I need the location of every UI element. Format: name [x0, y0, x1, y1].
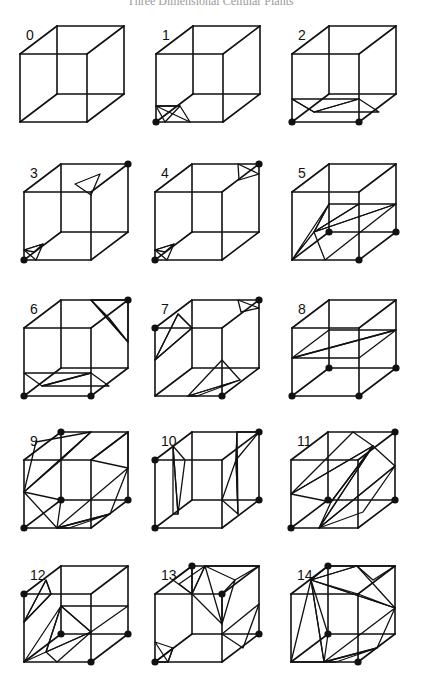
cube-edge	[359, 94, 396, 122]
cube-case-10: 10	[151, 428, 262, 531]
marked-vertex-dot	[188, 562, 195, 569]
isosurface-triangle	[292, 204, 329, 260]
cube-edge	[91, 634, 128, 662]
marked-vertex-dot	[20, 524, 27, 531]
marked-vertex-dot	[218, 590, 225, 597]
cube-case-2: 2	[288, 26, 396, 126]
isosurface-triangle	[222, 460, 238, 514]
isosurface-triangle	[46, 632, 91, 662]
cube-edge	[359, 164, 396, 192]
marked-vertex-dot	[354, 658, 361, 665]
cube-edge	[223, 26, 260, 54]
case-number-label: 7	[161, 301, 169, 317]
cube-edge	[222, 232, 259, 260]
cube-case-6: 6	[20, 296, 131, 399]
isosurface-triangle	[155, 314, 192, 360]
marked-vertex-dot	[355, 256, 362, 263]
cube-edge	[358, 432, 395, 460]
isosurface-triangle	[292, 330, 396, 358]
marked-vertex-dot	[255, 630, 262, 637]
cube-edge	[359, 300, 396, 328]
marked-vertex-dot	[124, 630, 131, 637]
cube-case-4: 4	[151, 160, 262, 263]
marked-vertex-dot	[355, 392, 362, 399]
cube-edge	[91, 300, 128, 328]
marked-vertex-dot	[124, 160, 131, 167]
isosurface-triangle	[173, 446, 185, 514]
isosurface-triangle	[314, 99, 379, 112]
isosurface-triangle	[222, 580, 235, 624]
cube-edge	[222, 432, 259, 460]
cube-case-14: 14	[291, 562, 395, 665]
cube-edge	[222, 164, 259, 192]
case-number-label: 0	[26, 27, 34, 43]
cube-case-5: 5	[292, 164, 400, 264]
isosurface-triangle	[324, 648, 377, 662]
cube-case-7: 7	[151, 296, 262, 399]
marked-vertex-dot	[151, 524, 158, 531]
marked-vertex-dot	[87, 392, 94, 399]
marked-vertex-dot	[151, 658, 158, 665]
isosurface-triangle	[24, 373, 91, 386]
cube-case-11: 11	[287, 428, 398, 531]
cube-case-12: 12	[20, 566, 131, 666]
marked-vertex-dot	[151, 456, 158, 463]
cube-edge	[87, 26, 124, 54]
marked-vertex-dot	[218, 392, 225, 399]
marked-vertex-dot	[255, 160, 262, 167]
marked-vertex-dot	[255, 496, 262, 503]
case-number-label: 3	[30, 165, 38, 181]
marked-vertex-dot	[391, 428, 398, 435]
marked-vertex-dot	[20, 590, 27, 597]
marked-vertex-dot	[20, 392, 27, 399]
marked-vertex-dot	[287, 524, 294, 531]
cube-edge	[222, 368, 259, 396]
marked-vertex-dot	[57, 630, 64, 637]
isosurface-triangle	[311, 566, 395, 608]
marked-vertex-dot	[151, 256, 158, 263]
marked-vertex-dot	[20, 256, 27, 263]
case-number-label: 6	[30, 301, 38, 317]
marked-vertex-dot	[324, 630, 331, 637]
cube-case-8: 8	[288, 300, 399, 400]
cube-case-13: 13	[151, 562, 262, 665]
cube-edge	[91, 164, 128, 192]
marked-vertex-dot	[325, 228, 332, 235]
cube-edge	[358, 500, 395, 528]
marked-vertex-dot	[324, 496, 331, 503]
marked-vertex-dot	[392, 364, 399, 371]
isosurface-triangle	[24, 580, 51, 622]
marked-vertex-dot	[392, 228, 399, 235]
isosurface-triangle	[91, 300, 128, 342]
case-number-label: 11	[297, 433, 312, 449]
marked-vertex-dot	[57, 496, 64, 503]
cube-edge	[24, 500, 61, 528]
case-number-label: 12	[30, 567, 46, 583]
isosurface-triangle	[155, 314, 192, 360]
marked-vertex-dot	[288, 118, 295, 125]
cube-edge	[292, 368, 329, 396]
cube-edge	[91, 232, 128, 260]
isosurface-triangle	[24, 492, 61, 528]
cube-edge	[359, 232, 396, 260]
marked-vertex-dot	[355, 118, 362, 125]
cube-edge	[292, 94, 329, 122]
isosurface-triangle	[61, 606, 128, 632]
cube-edge	[223, 94, 260, 122]
cube-edge	[91, 368, 128, 396]
marked-vertex-dot	[391, 496, 398, 503]
isosurface-triangle	[192, 566, 222, 624]
case-number-label: 1	[162, 27, 170, 43]
cube-edge	[222, 566, 259, 594]
marked-vertex-dot	[288, 392, 295, 399]
isosurface-triangle	[91, 432, 128, 468]
cube-edge	[20, 94, 57, 122]
isosurface-triangle	[24, 580, 51, 622]
isosurface-triangle	[188, 360, 240, 396]
marked-vertex-dot	[324, 562, 331, 569]
marked-vertex-dot	[325, 364, 332, 371]
marked-vertex-dot	[255, 428, 262, 435]
cube-edge	[87, 94, 124, 122]
case-number-label: 8	[298, 301, 306, 317]
cube-case-3: 3	[20, 160, 131, 263]
